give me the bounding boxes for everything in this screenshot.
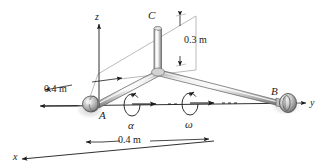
point-c-label: C [148, 10, 155, 21]
dimension-label-0-4m-offset: 0.4 m [44, 84, 67, 94]
y-axis-label: y [310, 98, 314, 108]
x-axis-label: x [13, 152, 17, 162]
point-a-label: A [99, 110, 106, 121]
mechanics-figure: z y x C A B 0.3 m 0.4 m 0.4 m α ω [0, 0, 323, 166]
dimension-0-4m-span [86, 139, 209, 142]
bearing-a [83, 96, 100, 112]
omega-symbol: ω [185, 119, 193, 130]
z-axis-label: z [95, 12, 99, 22]
rod-junction [152, 68, 165, 76]
dimension-label-0-4m-span: 0.4 m [118, 135, 141, 145]
rod-junction-c [154, 27, 162, 75]
alpha-symbol: α [128, 120, 134, 131]
rod-junction-b [159, 70, 277, 105]
angular-acceleration-arrow [124, 93, 156, 116]
point-b-label: B [271, 86, 278, 97]
rod-a-junction [95, 70, 161, 108]
dimension-label-0-3m: 0.3 m [184, 35, 207, 45]
